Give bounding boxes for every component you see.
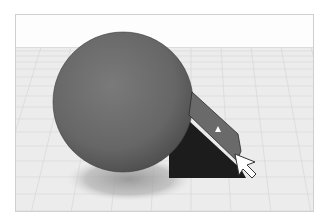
sphere-object[interactable] <box>53 32 193 172</box>
sky-background <box>16 15 314 48</box>
workplane-scene[interactable] <box>16 15 314 212</box>
viewport-frame[interactable] <box>15 14 314 212</box>
